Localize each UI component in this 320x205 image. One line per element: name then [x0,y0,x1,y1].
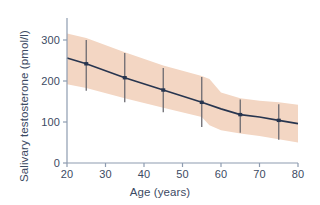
chart-figure: 0100200300 20304050607080 Salivary testo… [0,0,320,205]
x-axis-tick-label: 40 [138,168,150,180]
data-point-marker [123,76,127,79]
y-axis-title: Salivary testosterone (pmol/l) [18,26,30,186]
x-axis-tick-label: 50 [176,168,188,180]
data-point-marker [200,101,204,104]
x-axis-tick-label: 80 [292,168,304,180]
x-axis-tick-label: 30 [99,168,111,180]
x-axis-ticks [67,163,298,167]
data-point-marker [238,113,242,116]
confidence-band [67,33,298,142]
x-axis-tick-label: 60 [215,168,227,180]
chart-canvas [0,0,320,205]
data-point-marker [161,88,165,91]
data-point-marker [277,119,281,122]
x-axis-tick-label: 20 [61,168,73,180]
data-point-marker [84,62,88,65]
x-axis-tick-label: 70 [253,168,265,180]
x-axis-title: Age (years) [0,186,320,198]
